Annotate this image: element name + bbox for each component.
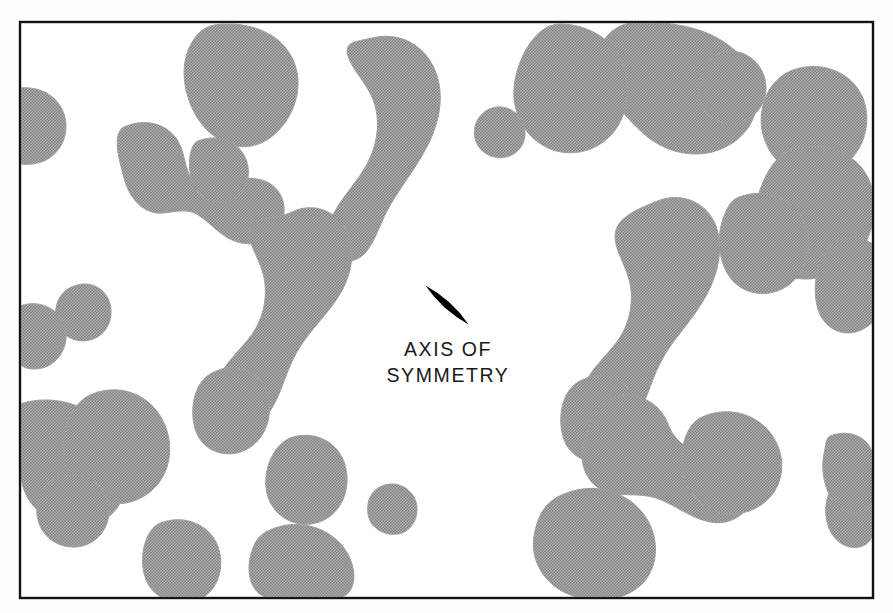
blob-bottom-mid-circle (266, 435, 347, 524)
blob-bottom-left-ellipse (143, 520, 221, 603)
figure-container: AXIS OF SYMMETRY (0, 0, 893, 613)
microstructure-figure: AXIS OF SYMMETRY (0, 0, 893, 613)
label-line-symmetry: SYMMETRY (387, 364, 510, 386)
blob-topmid-small (474, 107, 525, 158)
blob-bottom-tiny-circle (368, 484, 417, 534)
blob-center-left-S-tail (193, 368, 270, 454)
blob-left-lower-stub (37, 475, 109, 547)
label-line-axis-of: AXIS OF (404, 338, 492, 360)
blob-right-mid-bump (719, 194, 809, 294)
blob-topright-small-1 (698, 51, 766, 123)
